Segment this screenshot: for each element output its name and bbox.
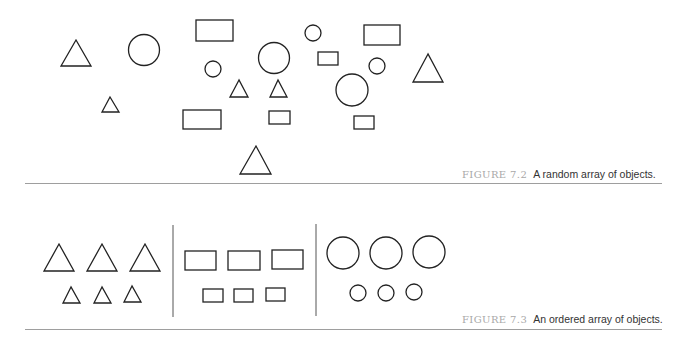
figure-divider-rule xyxy=(25,329,662,330)
circle-shape xyxy=(370,237,402,269)
triangles-group xyxy=(44,244,160,303)
triangle-shape xyxy=(124,286,141,302)
circle-shape xyxy=(327,237,359,269)
rect-shape xyxy=(203,289,223,302)
triangle-shape xyxy=(87,244,117,271)
circle-shape xyxy=(413,236,445,268)
figure-caption-text: An ordered array of objects. xyxy=(533,313,663,325)
rect-shape xyxy=(272,250,303,269)
triangle-shape xyxy=(63,287,80,303)
rect-shape xyxy=(228,251,260,270)
circle-shape xyxy=(350,285,366,301)
figure-label: FIGURE 7.3 xyxy=(462,314,527,325)
circles-group xyxy=(327,236,445,301)
circle-shape xyxy=(378,285,394,301)
book-page: FIGURE 7.2A random array of objects. FIG… xyxy=(0,0,684,345)
triangle-shape xyxy=(94,287,111,303)
circle-shape xyxy=(406,284,422,300)
rect-shape xyxy=(266,288,285,301)
rect-shape xyxy=(185,251,216,270)
triangle-shape xyxy=(44,244,74,271)
rect-shape xyxy=(234,289,253,302)
triangle-shape xyxy=(130,244,160,271)
ordered-array-illustration xyxy=(0,0,684,345)
rectangles-group xyxy=(185,250,303,302)
figure-7-3-caption: FIGURE 7.3An ordered array of objects. xyxy=(462,313,663,326)
